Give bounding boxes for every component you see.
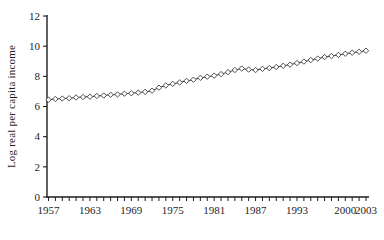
y-tick-label: 2 xyxy=(35,161,41,173)
x-tick-label: 2003 xyxy=(355,204,378,216)
x-tick-label: 2000 xyxy=(334,204,357,216)
y-tick-label: 0 xyxy=(35,191,41,203)
diamond-marker xyxy=(122,91,127,96)
diamond-marker xyxy=(356,49,361,54)
diamond-marker xyxy=(205,74,210,79)
diamond-marker xyxy=(211,73,216,78)
y-tick-label: 8 xyxy=(35,70,41,82)
income-chart-figure: Log real per capita income 0246810121957… xyxy=(0,0,384,240)
diamond-marker xyxy=(191,77,196,82)
diamond-marker xyxy=(322,54,327,59)
diamond-marker xyxy=(87,94,92,99)
diamond-marker xyxy=(156,85,161,90)
diamond-marker xyxy=(177,80,182,85)
diamond-marker xyxy=(218,71,223,76)
diamond-marker xyxy=(101,93,106,98)
x-tick-label: 1987 xyxy=(245,204,268,216)
diamond-marker xyxy=(294,60,299,65)
diamond-marker xyxy=(232,67,237,72)
diamond-marker xyxy=(115,92,120,97)
x-tick-label: 1963 xyxy=(79,204,102,216)
diamond-marker xyxy=(184,78,189,83)
diamond-marker xyxy=(267,65,272,70)
diamond-marker xyxy=(136,90,141,95)
diamond-marker xyxy=(260,66,265,71)
diamond-marker xyxy=(80,94,85,99)
diamond-marker xyxy=(315,56,320,61)
diamond-marker xyxy=(108,92,113,97)
diamond-marker xyxy=(363,48,368,53)
x-tick-label: 1969 xyxy=(120,204,143,216)
diamond-marker xyxy=(129,91,134,96)
diamond-marker xyxy=(349,50,354,55)
diamond-marker xyxy=(142,89,147,94)
diamond-marker xyxy=(308,57,313,62)
diamond-marker xyxy=(225,69,230,74)
y-tick-label: 4 xyxy=(35,130,41,142)
x-tick-label: 1975 xyxy=(162,204,185,216)
y-tick-label: 12 xyxy=(29,10,40,22)
diamond-marker xyxy=(170,81,175,86)
diamond-marker xyxy=(73,95,78,100)
diamond-marker xyxy=(343,51,348,56)
y-tick-label: 6 xyxy=(35,100,41,112)
diamond-marker xyxy=(198,75,203,80)
diamond-marker xyxy=(253,67,258,72)
diamond-marker xyxy=(239,66,244,71)
diamond-marker xyxy=(274,64,279,69)
diamond-marker xyxy=(246,67,251,72)
diamond-marker xyxy=(280,63,285,68)
diamond-marker xyxy=(94,93,99,98)
diamond-marker xyxy=(287,62,292,67)
x-tick-label: 1957 xyxy=(38,204,61,216)
diamond-marker xyxy=(53,96,58,101)
diamond-marker xyxy=(329,53,334,58)
diamond-marker xyxy=(67,96,72,101)
diamond-marker xyxy=(336,52,341,57)
diamond-marker xyxy=(301,59,306,64)
diamond-marker xyxy=(163,83,168,88)
x-tick-label: 1981 xyxy=(203,204,225,216)
diamond-marker xyxy=(149,88,154,93)
plot-svg: 0246810121957196319691975198119871993200… xyxy=(0,0,384,240)
y-tick-label: 10 xyxy=(29,40,41,52)
x-tick-label: 1993 xyxy=(286,204,309,216)
diamond-marker xyxy=(60,96,65,101)
